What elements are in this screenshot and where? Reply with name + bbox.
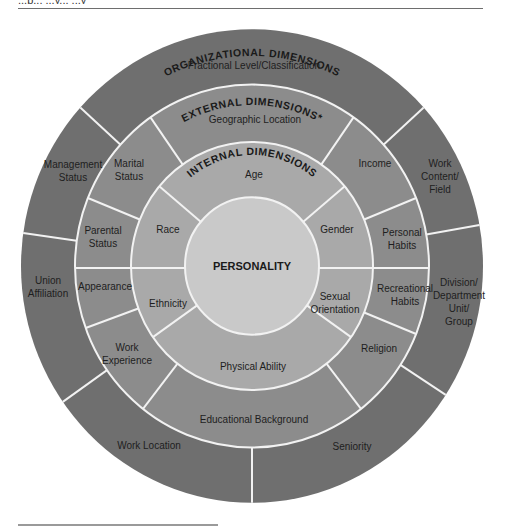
svg-text:Unit/: Unit/ bbox=[449, 303, 470, 314]
internal-ethnicity-label: Ethnicity bbox=[149, 298, 187, 309]
org-work-location-label: Work Location bbox=[117, 440, 181, 451]
personality-label: PERSONALITY bbox=[213, 260, 292, 272]
svg-text:Experience: Experience bbox=[102, 355, 152, 366]
svg-text:Union: Union bbox=[35, 275, 61, 286]
svg-text:Field: Field bbox=[429, 184, 451, 195]
svg-text:Group: Group bbox=[445, 316, 473, 327]
svg-text:Parental: Parental bbox=[84, 225, 121, 236]
svg-text:Habits: Habits bbox=[388, 240, 416, 251]
external-religion-label: Religion bbox=[361, 343, 397, 354]
svg-text:Sexual: Sexual bbox=[320, 291, 351, 302]
svg-text:Habits: Habits bbox=[391, 296, 419, 307]
svg-text:Management: Management bbox=[44, 159, 103, 170]
internal-gender-label: Gender bbox=[320, 224, 354, 235]
svg-text:Division/: Division/ bbox=[440, 277, 478, 288]
internal-age-label: Age bbox=[245, 169, 263, 180]
org-fractional-level-classification-label: Fractional Level/Classification bbox=[188, 60, 320, 71]
svg-text:Orientation: Orientation bbox=[311, 304, 360, 315]
svg-text:Affiliation: Affiliation bbox=[28, 288, 68, 299]
svg-text:Status: Status bbox=[115, 171, 143, 182]
external-geographic-location-label: Geographic Location bbox=[209, 114, 301, 125]
internal-race-label: Race bbox=[156, 224, 180, 235]
diversity-wheel-diagram: ORGANIZATIONAL DIMENSIONS EXTERNAL DIMEN… bbox=[0, 0, 505, 526]
external-educational-background-label: Educational Background bbox=[200, 414, 308, 425]
svg-text:Personal: Personal bbox=[382, 227, 421, 238]
svg-text:Department: Department bbox=[433, 290, 485, 301]
external-income-label: Income bbox=[359, 158, 392, 169]
org-seniority-label: Seniority bbox=[333, 441, 372, 452]
svg-text:Content/: Content/ bbox=[421, 171, 459, 182]
external-appearance-label: Appearance bbox=[78, 281, 132, 292]
svg-text:Recreational: Recreational bbox=[377, 283, 433, 294]
internal-physical-ability-label: Physical Ability bbox=[220, 361, 286, 372]
svg-text:Status: Status bbox=[89, 238, 117, 249]
svg-text:Work: Work bbox=[428, 158, 452, 169]
svg-text:Marital: Marital bbox=[114, 158, 144, 169]
svg-text:Status: Status bbox=[59, 172, 87, 183]
svg-text:Work: Work bbox=[115, 342, 139, 353]
